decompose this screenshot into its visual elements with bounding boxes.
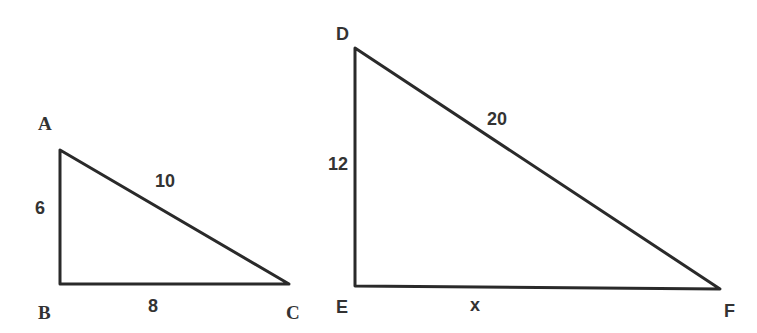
side-ac-label: 10	[155, 171, 175, 191]
vertex-c-label: C	[286, 302, 300, 323]
similar-triangles-diagram: A B C 6 8 10 D E F 12 x 20	[0, 0, 757, 333]
vertex-d-label: D	[336, 24, 349, 44]
triangle-abc: A B C 6 8 10	[35, 113, 300, 323]
vertex-b-label: B	[38, 302, 51, 323]
side-ab-label: 6	[35, 198, 45, 218]
side-ef-label: x	[470, 295, 480, 315]
triangle-def-shape	[355, 48, 720, 289]
side-df-label: 20	[487, 109, 507, 129]
side-bc-label: 8	[148, 296, 158, 316]
vertex-e-label: E	[336, 297, 348, 317]
side-de-label: 12	[328, 154, 348, 174]
vertex-f-label: F	[724, 301, 735, 321]
vertex-a-label: A	[38, 113, 52, 134]
triangle-def: D E F 12 x 20	[328, 24, 735, 321]
